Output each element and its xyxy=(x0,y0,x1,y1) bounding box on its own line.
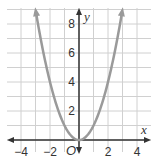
origin-label: O xyxy=(66,143,76,158)
y-tick-label: 4 xyxy=(68,75,75,89)
axes xyxy=(7,8,151,154)
x-axis-arrow-right xyxy=(144,137,151,143)
labels: x y O −4−2242468 xyxy=(14,9,147,159)
x-axis-label: x xyxy=(140,122,147,137)
x-tick-label: 2 xyxy=(105,145,112,159)
x-axis-arrow-left xyxy=(7,137,14,143)
y-tick-label: 8 xyxy=(68,17,75,31)
y-axis-label: y xyxy=(82,9,90,24)
y-axis-arrow-down xyxy=(76,147,82,154)
x-tick-label: 4 xyxy=(134,145,141,159)
y-tick-label: 2 xyxy=(68,104,75,118)
x-tick-label: −4 xyxy=(14,145,28,159)
curve-arrow-right xyxy=(118,7,125,16)
parabola-chart: x y O −4−2242468 xyxy=(0,0,155,164)
x-tick-label: −2 xyxy=(43,145,57,159)
y-tick-label: 6 xyxy=(68,46,75,60)
curve-arrow-left xyxy=(33,7,40,16)
